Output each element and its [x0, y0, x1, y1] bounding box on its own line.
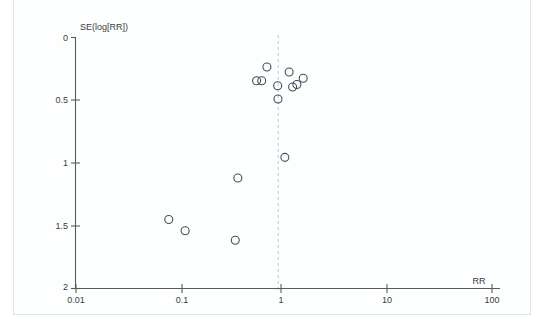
y-tick-label-1-5: 1.5 [55, 221, 68, 231]
x-tick-label-1: 1 [278, 295, 283, 305]
data-point [263, 63, 271, 71]
x-tick-label-0-1: 0.1 [176, 295, 189, 305]
funnel-plot-svg: 0 0.5 1 1.5 2 SE(log[RR]) 0.01 0.1 1 10 … [0, 0, 545, 330]
y-tick-label-0: 0 [63, 33, 68, 43]
x-tick-label-10: 10 [382, 295, 392, 305]
y-tick-label-2: 2 [63, 282, 68, 292]
data-point [165, 215, 173, 223]
x-tick-label-0-01: 0.01 [67, 295, 85, 305]
data-point [231, 236, 239, 244]
x-axis-title: RR [473, 276, 486, 286]
x-tick-label-100: 100 [484, 295, 499, 305]
figure-page: 0 0.5 1 1.5 2 SE(log[RR]) 0.01 0.1 1 10 … [0, 0, 545, 330]
y-tick-label-1: 1 [63, 158, 68, 168]
data-point [258, 77, 266, 85]
data-point [274, 82, 282, 90]
data-point [285, 68, 293, 76]
data-point [299, 74, 307, 82]
data-points-layer [165, 63, 307, 244]
y-axis-title: SE(log[RR]) [80, 22, 128, 32]
data-point [281, 153, 289, 161]
data-point [234, 174, 242, 182]
data-point [181, 227, 189, 235]
y-tick-label-0-5: 0.5 [55, 95, 68, 105]
funnel-plot: 0 0.5 1 1.5 2 SE(log[RR]) 0.01 0.1 1 10 … [0, 0, 545, 330]
